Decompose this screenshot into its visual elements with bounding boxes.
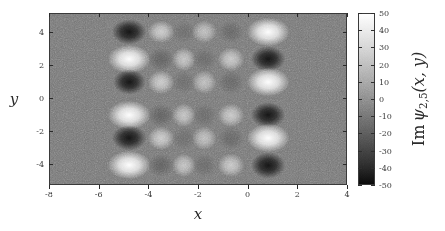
y-tick-label: -2	[36, 126, 44, 135]
colorbar-title-prefix: Im	[409, 125, 428, 147]
x-tick-label: 4	[344, 190, 349, 199]
colorbar-tick	[371, 30, 375, 31]
y-tick-label: 4	[39, 27, 44, 36]
y-tick-label: 2	[39, 60, 44, 69]
x-tick	[49, 185, 50, 189]
colorbar-tick	[371, 185, 375, 186]
colorbar-tick	[358, 116, 362, 117]
colorbar-tick-label: 50	[379, 9, 389, 18]
y-tick	[343, 164, 347, 165]
colorbar-title-symbol: ψ	[409, 109, 428, 122]
y-tick	[343, 32, 347, 33]
colorbar-tick	[358, 133, 362, 134]
y-tick	[343, 131, 347, 132]
x-tick-label: 0	[245, 190, 250, 199]
colorbar-tick	[358, 82, 362, 83]
x-tick	[148, 13, 149, 17]
colorbar-tick-label: -20	[379, 129, 392, 138]
colorbar-tick	[371, 13, 375, 14]
colorbar-tick	[371, 47, 375, 48]
colorbar-tick-label: -30	[379, 146, 392, 155]
x-tick	[49, 13, 50, 17]
colorbar-tick	[371, 65, 375, 66]
figure: -8-6-4-2024 420-2-4 x y 50403020100-10-2…	[0, 0, 445, 231]
x-tick	[347, 185, 348, 189]
colorbar-title-subscript: 2,5	[417, 93, 429, 109]
x-tick	[148, 185, 149, 189]
colorbar-tick	[371, 168, 375, 169]
x-tick	[297, 13, 298, 17]
y-axis-title: y	[10, 90, 18, 108]
colorbar-tick-label: 20	[379, 60, 389, 69]
y-tick	[49, 164, 53, 165]
y-tick	[343, 65, 347, 66]
x-tick	[198, 185, 199, 189]
y-tick	[49, 32, 53, 33]
colorbar-tick	[358, 151, 362, 152]
colorbar-tick	[371, 151, 375, 152]
colorbar-tick-label: 30	[379, 43, 389, 52]
colorbar-tick	[358, 65, 362, 66]
colorbar-tick	[371, 133, 375, 134]
y-tick	[49, 131, 53, 132]
heatmap-axes	[49, 13, 347, 185]
colorbar-tick	[358, 99, 362, 100]
x-tick-label: -6	[95, 190, 103, 199]
colorbar-tick	[358, 168, 362, 169]
y-tick-label: -4	[36, 159, 44, 168]
colorbar-tick-label: -40	[379, 163, 392, 172]
heatmap-noise-overlay	[50, 14, 346, 184]
x-tick	[99, 13, 100, 17]
x-tick-label: -4	[144, 190, 152, 199]
x-tick	[297, 185, 298, 189]
x-tick-label: 2	[295, 190, 300, 199]
colorbar-tick-label: 40	[379, 26, 389, 35]
y-tick	[49, 98, 53, 99]
colorbar-tick-label: -50	[379, 181, 392, 190]
colorbar-tick	[358, 13, 362, 14]
colorbar-tick-label: -10	[379, 112, 392, 121]
colorbar-tick-label: 10	[379, 77, 389, 86]
x-tick	[248, 13, 249, 17]
colorbar-title: Im ψ2,5(x, y)	[409, 52, 429, 146]
y-tick	[343, 98, 347, 99]
colorbar-title-args: (x, y)	[409, 52, 428, 93]
x-tick-label: -2	[194, 190, 202, 199]
x-tick	[347, 13, 348, 17]
y-tick-label: 0	[39, 93, 44, 102]
y-tick	[49, 65, 53, 66]
x-tick	[198, 13, 199, 17]
x-tick	[248, 185, 249, 189]
x-axis-title: x	[194, 205, 202, 223]
colorbar-tick	[371, 82, 375, 83]
x-tick	[99, 185, 100, 189]
colorbar-tick-label: 0	[379, 95, 384, 104]
x-tick-label: -8	[45, 190, 53, 199]
colorbar-tick	[358, 30, 362, 31]
colorbar-tick	[371, 116, 375, 117]
colorbar-tick	[358, 47, 362, 48]
colorbar-tick	[358, 185, 362, 186]
colorbar-tick	[371, 99, 375, 100]
